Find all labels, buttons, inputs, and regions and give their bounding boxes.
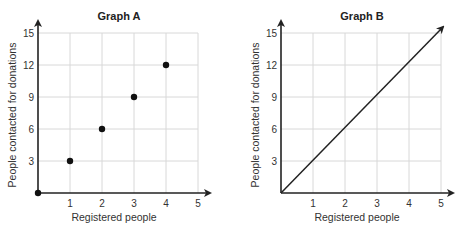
x-tick-label: 5 xyxy=(438,198,444,209)
x-tick-label: 3 xyxy=(374,198,380,209)
y-tick-label: 3 xyxy=(271,156,277,167)
x-tick-label: 4 xyxy=(163,198,169,209)
x-axis-label: Registered people xyxy=(314,211,399,223)
y-tick-label: 3 xyxy=(28,156,34,167)
graph-a: 123453691215Graph ARegistered peoplePeop… xyxy=(6,10,210,223)
y-tick-label: 6 xyxy=(271,124,277,135)
x-tick-label: 3 xyxy=(131,198,137,209)
data-point xyxy=(131,94,137,100)
chart-title: Graph B xyxy=(340,10,383,22)
data-line xyxy=(281,27,443,193)
y-tick-label: 9 xyxy=(271,92,277,103)
y-tick-label: 12 xyxy=(23,60,35,71)
graph-b: 123453691215Graph BRegistered peoplePeop… xyxy=(249,10,453,223)
data-point xyxy=(163,62,169,68)
y-tick-label: 15 xyxy=(23,28,35,39)
data-point xyxy=(35,190,41,196)
chart-title: Graph A xyxy=(98,10,141,22)
y-tick-label: 9 xyxy=(28,92,34,103)
y-axis-label: People contacted for donations xyxy=(249,43,261,188)
x-tick-label: 2 xyxy=(342,198,348,209)
x-tick-label: 2 xyxy=(99,198,105,209)
y-axis-label: People contacted for donations xyxy=(6,43,18,188)
data-point xyxy=(99,126,105,132)
x-tick-label: 1 xyxy=(67,198,73,209)
charts-canvas: 123453691215Graph ARegistered peoplePeop… xyxy=(0,0,461,233)
x-axis-label: Registered people xyxy=(71,211,156,223)
x-tick-label: 5 xyxy=(195,198,201,209)
y-tick-label: 12 xyxy=(266,60,278,71)
y-tick-label: 15 xyxy=(266,28,278,39)
y-tick-label: 6 xyxy=(28,124,34,135)
x-tick-label: 4 xyxy=(406,198,412,209)
x-tick-label: 1 xyxy=(310,198,316,209)
data-point xyxy=(67,158,73,164)
